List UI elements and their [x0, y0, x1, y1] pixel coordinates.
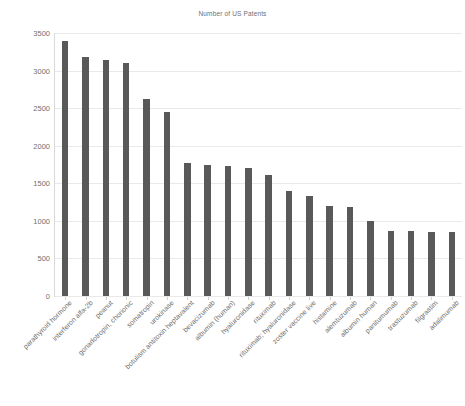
- bar[interactable]: [326, 206, 333, 296]
- bar[interactable]: [286, 191, 293, 296]
- plot-area: [55, 33, 462, 296]
- bar[interactable]: [82, 57, 89, 296]
- y-axis-tick-label: 3000: [4, 66, 50, 75]
- y-axis-tick-label: 2000: [4, 141, 50, 150]
- x-axis-tickmark: [86, 297, 87, 300]
- gridline: [55, 108, 462, 109]
- bar[interactable]: [428, 232, 435, 296]
- y-axis-tick-label: 1000: [4, 216, 50, 225]
- bar[interactable]: [225, 166, 232, 296]
- x-axis-tick-label: interferon alfa-2b: [50, 299, 93, 342]
- bar[interactable]: [449, 232, 456, 296]
- bar[interactable]: [184, 163, 191, 296]
- chart-title: Number of US Patents: [0, 10, 465, 17]
- bar[interactable]: [306, 196, 313, 296]
- bar[interactable]: [245, 168, 252, 296]
- gridline: [55, 146, 462, 147]
- bar[interactable]: [367, 221, 374, 296]
- y-axis-tick-label: 1500: [4, 179, 50, 188]
- bar[interactable]: [62, 41, 69, 296]
- bar[interactable]: [265, 175, 272, 296]
- bar[interactable]: [347, 207, 354, 296]
- patents-bar-chart: Number of US Patents 0500100015002000250…: [0, 0, 465, 406]
- gridline: [55, 71, 462, 72]
- gridline: [55, 183, 462, 184]
- gridline: [55, 33, 462, 34]
- bar[interactable]: [388, 231, 395, 296]
- y-axis-tick-label: 0: [4, 292, 50, 301]
- gridline: [55, 258, 462, 259]
- bar[interactable]: [123, 63, 130, 296]
- bar[interactable]: [408, 231, 415, 296]
- bar[interactable]: [103, 60, 110, 296]
- y-axis-tick-label: 3500: [4, 29, 50, 38]
- bar[interactable]: [164, 112, 171, 296]
- x-axis-tickmark: [147, 297, 148, 300]
- gridline: [55, 221, 462, 222]
- bar[interactable]: [143, 99, 150, 296]
- x-axis-tick-labels: parathyroid hormoneinterferon alfa-2bpea…: [55, 297, 465, 406]
- y-axis-tick-label: 500: [4, 254, 50, 263]
- y-axis-tick-label: 2500: [4, 104, 50, 113]
- bar[interactable]: [204, 165, 211, 296]
